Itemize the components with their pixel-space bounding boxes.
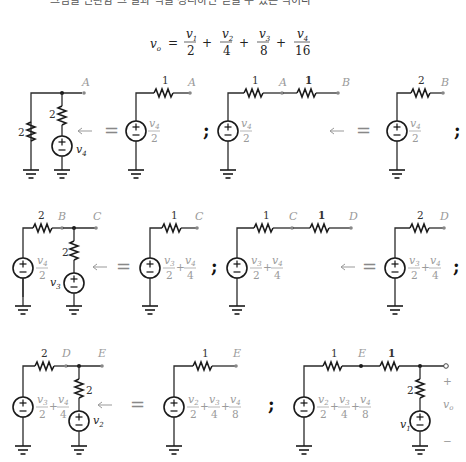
svg-text:8: 8	[362, 408, 369, 420]
voltage-source-icon	[410, 411, 430, 431]
svg-text:2: 2	[151, 132, 158, 144]
voltage-source-icon	[69, 411, 89, 431]
svg-text:1: 1	[252, 74, 259, 86]
svg-text:1: 1	[305, 74, 312, 86]
svg-text:8: 8	[260, 44, 268, 58]
formula-term-1: v1 2	[184, 27, 197, 58]
svg-text:D: D	[61, 347, 71, 360]
svg-text:2: 2	[49, 108, 56, 120]
svg-text:4: 4	[341, 408, 348, 420]
svg-text:+: +	[421, 261, 430, 273]
svg-text:2: 2	[412, 132, 419, 144]
thevenin-reduction-diagram: 그림을 변환함 그 결과 식을 정리하면 얻을 수 있는 식이다 vo = v1…	[0, 0, 466, 462]
svg-text:v2: v2	[222, 27, 234, 43]
left-arrow-icon	[330, 128, 344, 134]
svg-text:v4: v4	[272, 254, 283, 268]
circuit-v2-equivalent: 1 E v2 2 + v3 4 + v4 8	[164, 347, 241, 454]
left-arrow-icon	[93, 264, 107, 270]
svg-text:v3: v3	[251, 254, 262, 268]
svg-text:;: ;	[268, 394, 275, 415]
svg-text:1: 1	[388, 347, 395, 359]
source-value-fraction: v4 2	[148, 117, 160, 144]
left-arrow-icon	[78, 128, 92, 134]
svg-text:v3: v3	[259, 27, 271, 43]
svg-text:2: 2	[166, 269, 173, 281]
svg-text:v4: v4	[185, 254, 196, 268]
svg-text:v4: v4	[360, 393, 371, 407]
svg-text:v2: v2	[188, 393, 199, 407]
svg-text:−: −	[443, 435, 452, 447]
svg-text:+: +	[330, 400, 339, 412]
svg-text:+: +	[239, 36, 249, 50]
svg-text:v4: v4	[297, 27, 308, 43]
svg-text:2: 2	[38, 209, 45, 221]
circuit-v4-extended: 1 A 1 B v4 2	[218, 74, 350, 178]
svg-text:1: 1	[171, 209, 178, 221]
svg-text:+: +	[176, 261, 185, 273]
svg-text:=: =	[168, 36, 178, 50]
svg-text:=: =	[130, 394, 145, 415]
svg-text:2: 2	[190, 408, 197, 420]
svg-text:A: A	[187, 76, 196, 89]
svg-text:4: 4	[60, 408, 67, 420]
svg-text:v4: v4	[37, 254, 48, 268]
svg-text:B: B	[341, 76, 350, 89]
svg-text:1: 1	[331, 347, 338, 359]
circuit-v2-original: 2 D E v3 2 + v4 4 2 v2	[13, 347, 106, 454]
svg-text:2: 2	[39, 408, 46, 420]
circuit-v3-node-d: 2 D v3 2 + v4 4	[385, 209, 449, 314]
svg-text:1: 1	[263, 209, 270, 221]
svg-text:C: C	[93, 210, 102, 223]
circuit-v4-original: 2 2 v4 A	[18, 76, 90, 178]
svg-text:+: +	[276, 36, 286, 50]
formula-term-2: v2 4	[220, 27, 234, 58]
svg-text:vo: vo	[443, 398, 453, 412]
svg-text:v3: v3	[164, 254, 175, 268]
svg-text:2: 2	[187, 44, 195, 58]
header-cut-text: 그림을 변환함 그 결과 식을 정리하면 얻을 수 있는 식이다	[50, 0, 311, 7]
svg-text:4: 4	[274, 269, 281, 281]
svg-text:8: 8	[232, 408, 239, 420]
svg-text:1: 1	[202, 347, 209, 359]
svg-text:16: 16	[295, 44, 310, 58]
svg-text:+: +	[202, 36, 212, 50]
circuit-v4-node-b: 2 B v4 2	[387, 74, 449, 178]
svg-text:v3: v3	[37, 393, 48, 407]
output-terminal	[444, 364, 449, 369]
svg-text:v2: v2	[93, 414, 104, 429]
svg-text:2: 2	[18, 126, 25, 138]
formula-term-4: v4 16	[294, 27, 310, 58]
svg-text:E: E	[232, 347, 241, 360]
svg-text:v1: v1	[400, 418, 411, 433]
svg-text:C: C	[195, 210, 204, 223]
svg-text:v3: v3	[409, 254, 420, 268]
svg-text:2: 2	[253, 269, 260, 281]
result-formula: vo = v1 2 + v2 4 + v3 8 + v4 16	[150, 27, 310, 58]
svg-text:4: 4	[432, 269, 439, 281]
svg-text:v1: v1	[186, 27, 197, 43]
svg-text:v4: v4	[241, 117, 252, 131]
svg-text:+: +	[351, 400, 360, 412]
svg-text:D: D	[439, 210, 449, 223]
svg-text:2: 2	[320, 408, 327, 420]
circuit-v4-equivalent: 1 A v4 2	[126, 74, 196, 178]
svg-text:v3: v3	[50, 276, 61, 291]
svg-text:1: 1	[162, 74, 169, 86]
svg-text:2: 2	[417, 209, 424, 221]
circuit-final-output: 1 E 1 v2 2 + v3 4 + v4 8 2 v1 + vo	[294, 347, 453, 454]
svg-text:;: ;	[203, 120, 210, 141]
circuit-v3-equivalent: 1 C v3 2 + v4 4	[140, 209, 204, 314]
svg-text:A: A	[278, 76, 287, 89]
svg-text:=: =	[362, 256, 377, 277]
svg-text:vo: vo	[150, 37, 161, 53]
svg-text:+: +	[49, 400, 58, 412]
svg-text:2: 2	[418, 74, 425, 86]
svg-text:2: 2	[407, 384, 414, 396]
voltage-source-icon	[52, 136, 72, 156]
left-arrow-icon	[341, 264, 355, 270]
svg-text:4: 4	[187, 269, 194, 281]
row-3: 2 D E v3 2 + v4 4 2 v2 =	[13, 347, 453, 454]
svg-text:v4: v4	[410, 117, 421, 131]
svg-text:=: =	[116, 256, 131, 277]
svg-text:2: 2	[243, 132, 250, 144]
